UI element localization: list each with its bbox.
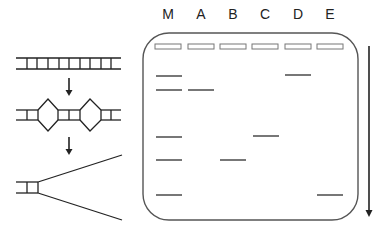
arrow-down-icon [66, 137, 73, 155]
strand-separation [16, 155, 122, 220]
wells [155, 44, 343, 49]
diagram-canvas: M A B C D E [0, 0, 384, 236]
migration-arrow-icon [366, 46, 373, 217]
gel-outline [143, 33, 358, 220]
partial-denaturation [16, 99, 121, 131]
arrow-down-icon [66, 78, 73, 96]
intact-dna [16, 58, 121, 69]
bands [156, 75, 343, 195]
diagram-svg [0, 0, 384, 236]
